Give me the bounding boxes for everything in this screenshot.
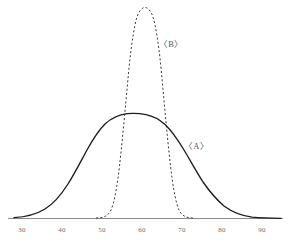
x-tick-label-70: 70 bbox=[172, 226, 192, 234]
x-tick-label-60: 60 bbox=[132, 226, 152, 234]
curve-a-label: 〈A〉 bbox=[184, 141, 209, 151]
x-tick-label-80: 80 bbox=[212, 226, 232, 234]
plot-area bbox=[0, 0, 290, 245]
x-tick-label-40: 40 bbox=[52, 226, 72, 234]
x-tick-label-90: 90 bbox=[252, 226, 272, 234]
x-tick-label-30: 30 bbox=[12, 226, 32, 234]
x-tick-label-50: 50 bbox=[92, 226, 112, 234]
distribution-chart-figure: 〈B〉 〈A〉 30 40 50 60 70 80 90 bbox=[0, 0, 290, 245]
curve-b-label: 〈B〉 bbox=[159, 39, 184, 49]
curve-a-path bbox=[14, 113, 281, 218]
